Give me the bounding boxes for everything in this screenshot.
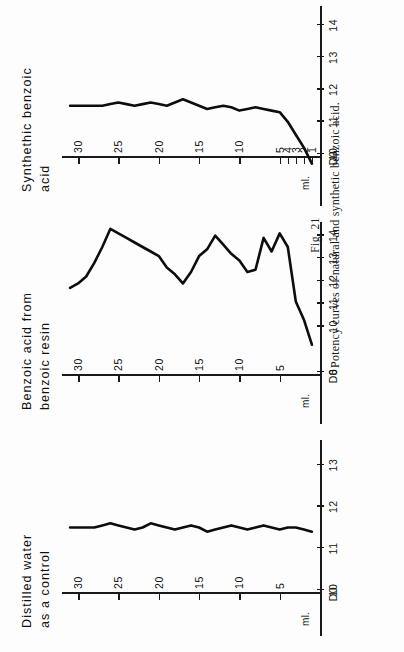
panel-1-polyline xyxy=(70,523,312,531)
x-tick-label-5: 5 xyxy=(274,365,286,371)
x-tick-20 xyxy=(159,593,160,600)
x-tick-10 xyxy=(239,375,240,382)
x-tick-label-20: 20 xyxy=(153,576,165,589)
x-tick-15 xyxy=(199,375,200,382)
y-tick-label-13: 13 xyxy=(327,459,339,472)
x-tick-30 xyxy=(78,593,79,600)
x-tick-20 xyxy=(159,375,160,382)
x-minor-tick-2 xyxy=(304,157,305,164)
x-tick-label-20: 20 xyxy=(153,140,165,153)
x-tick-label-10: 10 xyxy=(233,140,245,153)
x-tick-label-25: 25 xyxy=(112,140,124,153)
x-minor-tick-3 xyxy=(296,157,297,164)
x-tick-label-10: 10 xyxy=(233,358,245,371)
panel-2-curve xyxy=(0,216,404,434)
x-tick-25 xyxy=(118,593,119,600)
x-tick-20 xyxy=(159,157,160,164)
panel-1-curve xyxy=(0,434,404,652)
y-tick-12 xyxy=(317,505,324,506)
x-tick-5 xyxy=(280,593,281,600)
x-tick-10 xyxy=(239,593,240,600)
chart-panel-synthetic-benzoic: Synthethic benzoic acid ml. 510152025301… xyxy=(0,0,404,216)
x-tick-label-20: 20 xyxy=(153,358,165,371)
x-tick-label-15: 15 xyxy=(193,358,205,371)
x-tick-label-30: 30 xyxy=(72,576,84,589)
x-tick-5 xyxy=(280,375,281,382)
panel-3-curve xyxy=(0,0,404,216)
scanned-figure-page: Distilled water as a control ml. 5101520… xyxy=(0,0,404,652)
y-tick-13 xyxy=(317,464,324,465)
y-tick-10 xyxy=(317,589,324,590)
panel-3-polyline xyxy=(70,99,312,163)
chart-panel-benzoic-resin: Benzoic acid from benzoic resin ml. 5101… xyxy=(0,216,404,434)
y-tick-label-12: 12 xyxy=(327,500,339,513)
x-tick-15 xyxy=(199,157,200,164)
chart-panel-distilled-water: Distilled water as a control ml. 5101520… xyxy=(0,434,404,652)
x-tick-25 xyxy=(118,157,119,164)
origin-label: D0 xyxy=(327,587,339,602)
x-tick-30 xyxy=(78,157,79,164)
y-tick-11 xyxy=(317,547,324,548)
x-tick-label-25: 25 xyxy=(112,358,124,371)
x-tick-label-15: 15 xyxy=(193,576,205,589)
x-tick-15 xyxy=(199,593,200,600)
figure-caption: Fig. 21 Potency curves of natural and sy… xyxy=(309,20,343,450)
x-tick-10 xyxy=(239,157,240,164)
x-tick-label-30: 30 xyxy=(72,358,84,371)
x-tick-5 xyxy=(280,157,281,164)
x-tick-label-30: 30 xyxy=(72,140,84,153)
figure-caption-text: Potency curves of natural and synthetic … xyxy=(328,20,343,450)
x-minor-tick-label-4: 4 xyxy=(282,147,294,153)
x-minor-tick-4 xyxy=(288,157,289,164)
x-tick-label-5: 5 xyxy=(274,583,286,589)
x-tick-label-25: 25 xyxy=(112,576,124,589)
y-tick-label-11: 11 xyxy=(327,542,339,554)
x-tick-label-15: 15 xyxy=(193,140,205,153)
x-tick-25 xyxy=(118,375,119,382)
figure-number: Fig. 21 xyxy=(309,20,321,450)
panel-2-polyline xyxy=(70,229,312,345)
x-tick-label-10: 10 xyxy=(233,576,245,589)
x-tick-30 xyxy=(78,375,79,382)
figure-stage: Distilled water as a control ml. 5101520… xyxy=(0,0,404,652)
